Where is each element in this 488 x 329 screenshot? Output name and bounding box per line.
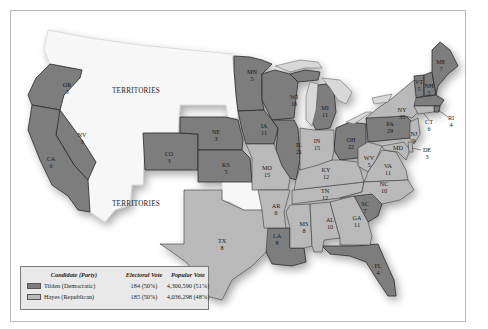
label-nj: NJ bbox=[411, 130, 418, 137]
ev-ca: 6 bbox=[49, 162, 52, 169]
ev-wv: 5 bbox=[367, 161, 370, 168]
label-la: LA bbox=[273, 232, 282, 239]
ev-al: 10 bbox=[327, 223, 333, 230]
label-pa: PA bbox=[386, 120, 394, 127]
territories-label-north: TERRITORIES bbox=[112, 87, 160, 95]
legend-header: Candidate (Party) Electoral Vote Popular… bbox=[21, 270, 208, 280]
label-ks: KS bbox=[222, 161, 230, 168]
ev-va: 11 bbox=[385, 169, 391, 176]
label-mn: MN bbox=[247, 68, 258, 75]
legend-row-tilden: Tilden (Democratic) 184 (50%) 4,300,590 … bbox=[21, 281, 208, 291]
legend-candidate: Tilden (Democratic) bbox=[44, 281, 95, 291]
label-ne: NE bbox=[212, 128, 220, 135]
label-sc: SC bbox=[361, 200, 369, 207]
ev-pa: 29 bbox=[387, 127, 393, 134]
ev-la: 8 bbox=[275, 239, 278, 246]
label-oh: OH bbox=[347, 136, 356, 143]
label-wi: WI bbox=[290, 93, 298, 100]
ev-vt: 5 bbox=[417, 85, 420, 92]
label-nh: NH bbox=[425, 82, 434, 89]
ev-nv: 3 bbox=[80, 138, 83, 145]
ev-nh: 5 bbox=[427, 89, 430, 96]
ev-ia: 11 bbox=[261, 129, 267, 136]
label-de: DE bbox=[423, 146, 431, 153]
label-ms: MS bbox=[300, 220, 310, 227]
label-ar: AR bbox=[272, 202, 281, 209]
ev-ne: 3 bbox=[214, 135, 217, 142]
label-ga: GA bbox=[353, 214, 362, 221]
ev-mn: 5 bbox=[250, 75, 253, 82]
ev-tx: 8 bbox=[220, 244, 223, 251]
ev-de: 3 bbox=[425, 153, 428, 160]
ev-co: 3 bbox=[167, 157, 170, 164]
ev-nj: 9 bbox=[412, 137, 415, 144]
label-md: MD bbox=[393, 144, 404, 151]
label-nc: NC bbox=[380, 180, 389, 187]
lake-superior bbox=[275, 60, 322, 72]
legend-electoral: 184 (50%) bbox=[124, 281, 164, 291]
label-wv: WV bbox=[364, 154, 375, 161]
ev-ct: 6 bbox=[427, 125, 430, 132]
ev-tn: 12 bbox=[322, 194, 328, 201]
legend-swatch-light bbox=[27, 294, 41, 300]
state-ri bbox=[434, 106, 440, 112]
legend-candidate: Hayes (Republican) bbox=[44, 292, 94, 302]
ev-sc: 7 bbox=[363, 207, 366, 214]
ev-oh: 22 bbox=[348, 143, 354, 150]
label-me: ME bbox=[436, 58, 446, 65]
label-al: AL bbox=[326, 216, 334, 223]
state-fl bbox=[322, 244, 396, 296]
ev-ri: 4 bbox=[449, 121, 452, 128]
label-ny: NY bbox=[398, 106, 407, 113]
ev-wi: 10 bbox=[291, 100, 297, 107]
label-ia: IA bbox=[261, 122, 268, 129]
label-co: CO bbox=[165, 150, 174, 157]
ev-fl: 4 bbox=[376, 269, 379, 276]
label-tn: TN bbox=[321, 187, 330, 194]
label-or: OR bbox=[63, 81, 72, 88]
ev-ks: 5 bbox=[224, 168, 227, 175]
legend-electoral: 185 (50%) bbox=[124, 292, 164, 302]
label-mi: MI bbox=[321, 104, 329, 111]
territories-label-south: TERRITORIES bbox=[112, 200, 160, 208]
state-me bbox=[432, 42, 458, 95]
ev-ar: 6 bbox=[274, 209, 277, 216]
legend-swatch-dark bbox=[27, 283, 41, 289]
label-vt: VT bbox=[415, 78, 423, 85]
ev-ga: 11 bbox=[354, 221, 360, 228]
label-ct: CT bbox=[425, 118, 433, 125]
label-ca: CA bbox=[47, 155, 56, 162]
ev-mi: 11 bbox=[322, 111, 328, 118]
legend-header-candidate: Candidate (Party) bbox=[43, 270, 105, 280]
legend-row-hayes: Hayes (Republican) 185 (50%) 4,036,298 (… bbox=[21, 292, 208, 302]
label-in: IN bbox=[314, 137, 321, 144]
legend-popular: 4,300,590 (51%) bbox=[166, 281, 210, 291]
label-ky: KY bbox=[322, 166, 331, 173]
ev-or: 3 bbox=[65, 88, 68, 95]
label-tx: TX bbox=[218, 237, 227, 244]
label-ri: RI bbox=[448, 114, 454, 121]
ev-ms: 8 bbox=[302, 227, 305, 234]
label-fl: FL bbox=[374, 262, 381, 269]
legend: Candidate (Party) Electoral Vote Popular… bbox=[20, 266, 209, 310]
legend-popular: 4,036,298 (48%) bbox=[166, 292, 210, 302]
ev-il: 21 bbox=[296, 148, 302, 155]
ev-nc: 10 bbox=[381, 187, 387, 194]
legend-header-popular: Popular Vote bbox=[166, 270, 210, 280]
label-nv: NV bbox=[78, 131, 87, 138]
ev-in: 15 bbox=[314, 144, 320, 151]
label-mo: MO bbox=[262, 164, 273, 171]
ev-ny: 35 bbox=[399, 113, 405, 120]
ev-mo: 15 bbox=[264, 171, 270, 178]
ev-me: 7 bbox=[439, 65, 442, 72]
label-il: IL bbox=[296, 141, 302, 148]
label-va: VA bbox=[384, 162, 393, 169]
legend-header-electoral: Electoral Vote bbox=[124, 270, 164, 280]
ev-ky: 12 bbox=[323, 173, 329, 180]
